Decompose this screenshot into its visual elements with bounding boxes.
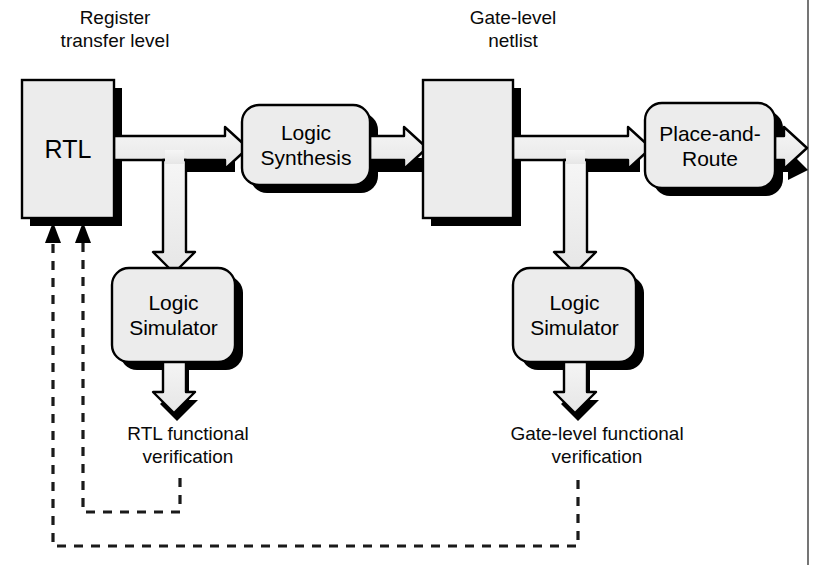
label-gate-level-netlist: Gate-level netlist (418, 6, 608, 52)
block-logic-synthesis (242, 105, 370, 185)
block-logic-simulator-rtl (112, 268, 235, 362)
diagram-vector-layer (0, 0, 819, 565)
flow-rtl-to-synthesis (114, 127, 248, 273)
label-rtl-functional-verification: RTL functional verification (93, 422, 283, 468)
block-shapes (22, 80, 775, 362)
flow-netlist-to-place-route (513, 127, 651, 273)
block-gate-netlist (423, 80, 513, 218)
diagram-canvas: Register transfer level Gate-level netli… (0, 0, 819, 565)
label-gate-level-functional-verification: Gate-level functional verification (472, 422, 722, 468)
flow-synthesis-to-netlist (370, 127, 427, 172)
block-logic-simulator-gate (513, 268, 636, 362)
label-register-transfer-level: Register transfer level (20, 6, 210, 52)
block-rtl (22, 80, 114, 218)
block-place-and-route (645, 103, 775, 188)
